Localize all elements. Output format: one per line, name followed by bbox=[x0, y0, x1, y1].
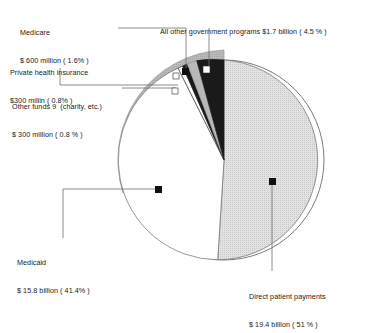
marker-medicaid bbox=[155, 186, 162, 193]
marker-medicare bbox=[182, 68, 189, 75]
label-direct-patient-payments-line2: $ 19.4 billion ( 51 % ) bbox=[249, 320, 326, 329]
label-private-health-insurance-line1: Private health insurance bbox=[10, 68, 88, 77]
label-other-funds-line2: $ 300 million ( 0.8 % ) bbox=[12, 130, 102, 139]
marker-all-other-government bbox=[203, 66, 210, 73]
label-medicaid: Medicaid $ 15.8 billion ( 41.4% ) bbox=[17, 240, 90, 314]
label-direct-patient-payments: Direct patient payments $ 19.4 billion (… bbox=[249, 274, 326, 333]
label-medicaid-line2: $ 15.8 billion ( 41.4% ) bbox=[17, 286, 90, 295]
label-direct-patient-payments-line1: Direct patient payments bbox=[249, 292, 326, 301]
marker-private-health-insurance bbox=[173, 73, 179, 79]
slice-direct-patient-payments[interactable] bbox=[218, 60, 318, 260]
label-medicare-line1: Medicare bbox=[20, 28, 89, 37]
label-other-funds-line1: Other funds 9 (charity, etc.) bbox=[12, 102, 102, 111]
label-medicaid-line1: Medicaid bbox=[17, 258, 90, 267]
label-all-other-government-line1: All other government programs $1.7 billi… bbox=[160, 27, 327, 36]
marker-other-funds bbox=[172, 88, 178, 94]
marker-direct-patient-payments bbox=[269, 178, 276, 185]
label-other-funds: Other funds 9 (charity, etc.) $ 300 mill… bbox=[12, 84, 102, 158]
label-all-other-government: All other government programs $1.7 billi… bbox=[160, 9, 327, 55]
